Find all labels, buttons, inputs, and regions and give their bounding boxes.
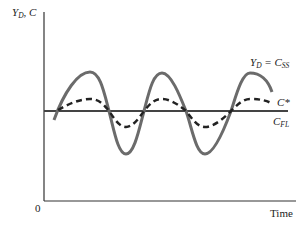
y-axis-label-rest: , C [24, 6, 37, 18]
cfl-label: CFL [273, 116, 289, 129]
yd-css-label: YD = CSS [250, 57, 289, 70]
cstar-curve [58, 99, 273, 127]
yd-label-eq: = C [262, 56, 282, 68]
cstar-label: C* [277, 97, 290, 108]
x-axis-label: Time [270, 208, 293, 219]
yd-label-sub2: SS [282, 61, 290, 70]
yd-css-curve [54, 72, 272, 154]
chart-canvas [0, 0, 307, 229]
y-axis-label: YD, C [12, 7, 36, 20]
cfl-label-sub: FL [280, 120, 289, 129]
origin-label: 0 [35, 203, 41, 214]
